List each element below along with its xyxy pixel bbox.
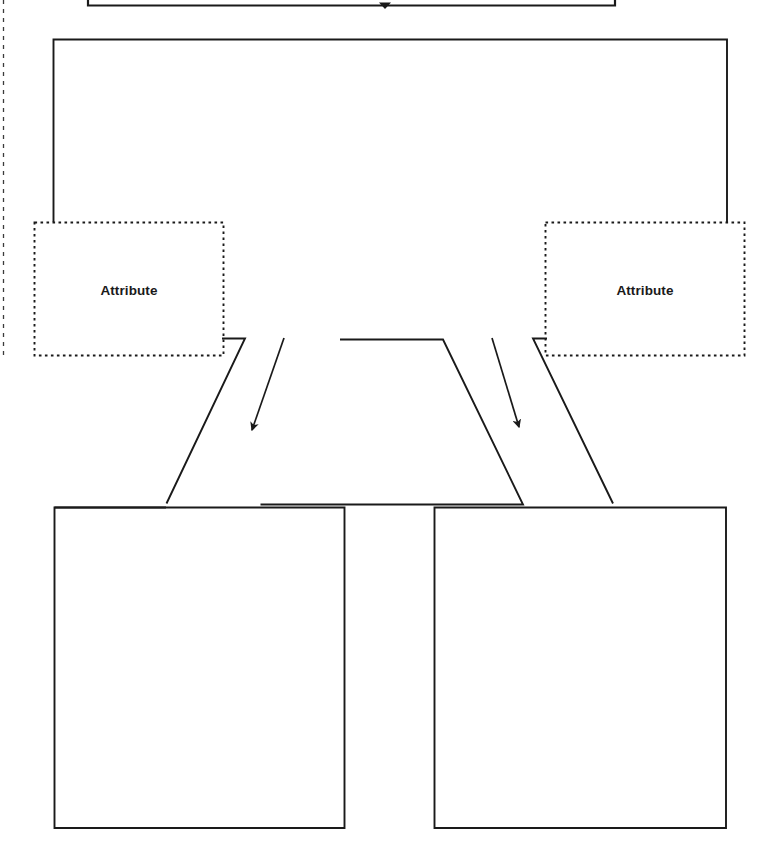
arrow-right	[492, 338, 519, 427]
child-entity-right-box	[435, 508, 727, 829]
diagram-canvas: Attribute Attribute	[0, 0, 771, 858]
attribute-left-label: Attribute	[34, 283, 224, 298]
top-cropped-box	[88, 0, 615, 6]
edge-right-diagonal	[533, 339, 613, 504]
diagram-svg	[0, 0, 771, 858]
child-entity-left-box	[55, 508, 345, 829]
attribute-right-label: Attribute	[545, 283, 745, 298]
arrow-left	[252, 338, 284, 430]
center-trapezoid	[261, 340, 524, 505]
edge-left-diagonal	[167, 339, 246, 504]
parent-entity-box	[54, 40, 728, 223]
